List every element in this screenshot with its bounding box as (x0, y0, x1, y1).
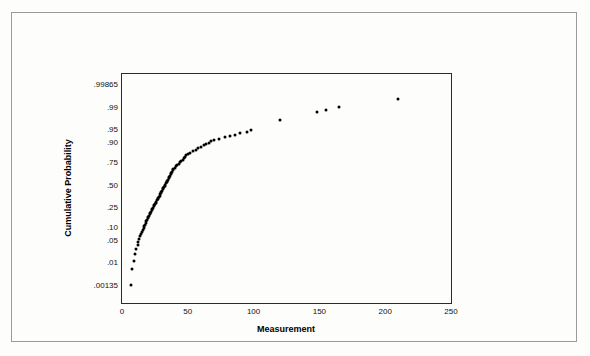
y-tick-label: .99865 (94, 80, 122, 89)
y-tick-label: .01 (107, 258, 122, 267)
y-tick-label: .50 (107, 180, 122, 189)
plot-area: .00135.01.05.10.25.50.75.90.95.99.99865 … (121, 73, 452, 304)
data-point (218, 137, 221, 140)
data-point (338, 105, 341, 108)
x-tick-label: 50 (183, 303, 192, 316)
data-point (239, 132, 242, 135)
chart-page: Cumulative Probability Measurement .0013… (0, 0, 590, 356)
y-tick-label: .00135 (94, 281, 122, 290)
y-tick-label: .25 (107, 203, 122, 212)
x-tick-label: 200 (379, 303, 392, 316)
y-tick-label: .75 (107, 157, 122, 166)
data-point (213, 138, 216, 141)
data-point (137, 240, 140, 243)
data-point (134, 253, 137, 256)
x-tick-label: 0 (120, 303, 124, 316)
y-tick-label: .05 (107, 235, 122, 244)
data-point (249, 129, 252, 132)
data-point (315, 110, 318, 113)
data-point (130, 267, 133, 270)
data-point (223, 136, 226, 139)
data-point (138, 237, 141, 240)
y-tick-label: .10 (107, 223, 122, 232)
x-tick-label: 150 (313, 303, 326, 316)
y-tick-label: .90 (107, 137, 122, 146)
data-point (135, 248, 138, 251)
data-point (324, 108, 327, 111)
y-tick-label: .95 (107, 125, 122, 134)
data-point (246, 130, 249, 133)
data-point (397, 98, 400, 101)
y-axis-label: Cumulative Probability (63, 139, 73, 237)
data-point (278, 119, 281, 122)
x-tick-label: 250 (444, 303, 457, 316)
chart-frame: Cumulative Probability Measurement .0013… (11, 12, 577, 342)
data-point (132, 260, 135, 263)
data-point (228, 135, 231, 138)
data-point (234, 133, 237, 136)
y-tick-label: .99 (107, 102, 122, 111)
x-axis-label: Measurement (257, 324, 315, 334)
data-point (129, 284, 132, 287)
data-point (136, 244, 139, 247)
x-tick-label: 100 (247, 303, 260, 316)
